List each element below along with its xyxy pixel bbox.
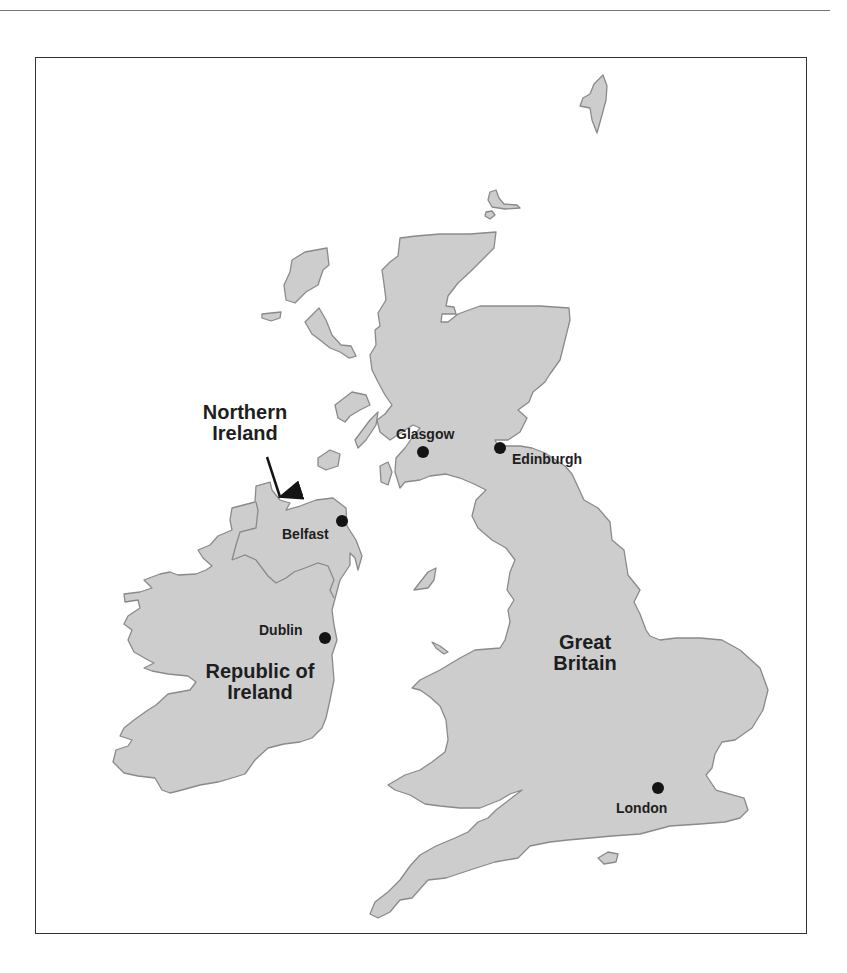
map-canvas <box>0 0 847 973</box>
city-marker-glasgow <box>417 446 429 458</box>
city-marker-edinburgh <box>494 442 506 454</box>
islay-island <box>318 450 340 470</box>
skye-island <box>305 308 356 358</box>
city-label-london: London <box>616 801 667 816</box>
city-label-dublin: Dublin <box>259 623 303 638</box>
label-republic-of-ireland: Republic of Ireland <box>190 661 330 703</box>
city-label-edinburgh: Edinburgh <box>512 452 582 467</box>
label-great-britain: Great Britain <box>530 632 640 674</box>
city-marker-belfast <box>336 515 348 527</box>
isle-of-wight <box>598 852 618 864</box>
mull-island <box>335 392 370 422</box>
label-great-britain-line1: Great <box>530 632 640 653</box>
shetland-island <box>580 75 607 133</box>
label-republic-of-ireland-line2: Ireland <box>190 682 330 703</box>
small-isle <box>262 312 281 321</box>
orkney-island <box>488 190 520 209</box>
city-label-belfast: Belfast <box>282 527 329 542</box>
label-northern-ireland: Northern Ireland <box>190 402 300 444</box>
city-label-glasgow: Glasgow <box>396 427 454 442</box>
label-northern-ireland-line2: Ireland <box>190 423 300 444</box>
label-northern-ireland-line1: Northern <box>190 402 300 423</box>
city-marker-london <box>652 782 664 794</box>
label-republic-of-ireland-line1: Republic of <box>190 661 330 682</box>
jura-island <box>355 412 378 448</box>
lewis-island <box>284 248 329 303</box>
orkney-island-small <box>485 211 495 219</box>
isle-of-man <box>414 568 436 590</box>
city-marker-dublin <box>319 632 331 644</box>
arran-island <box>380 462 392 485</box>
label-great-britain-line2: Britain <box>530 653 640 674</box>
anglesey-island <box>432 642 448 654</box>
